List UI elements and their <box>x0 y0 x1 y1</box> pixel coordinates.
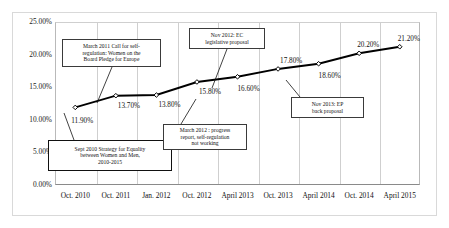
annotation-nov-2012: Nov 2012: EClegislative proposal <box>189 28 265 49</box>
data-point-marker <box>397 44 402 49</box>
annotation-line: Nov 2013: EP <box>312 101 344 108</box>
annotation-nov-2013: Nov 2013: EPback proposal <box>291 97 364 118</box>
annotation-line: regulation: Women on the <box>82 50 140 57</box>
data-point-marker <box>357 51 362 56</box>
data-point-label: 20.20% <box>357 41 379 49</box>
data-point-marker <box>154 93 159 98</box>
annotation-text: Nov 2013: EPback proposal <box>312 101 344 114</box>
annotation-march-2011: March 2011 Call for self-regulation: Wom… <box>62 39 161 67</box>
annotation-line: 2010-2015 <box>75 159 146 166</box>
data-point-marker <box>276 67 281 72</box>
data-point-label: 17.80% <box>280 57 302 65</box>
annotation-march-2012: March 2012 : progressreport, self-regula… <box>163 124 247 150</box>
data-point-label: 13.80% <box>158 101 180 109</box>
data-point-label: 13.70% <box>118 102 140 110</box>
data-point-label: 15.80% <box>199 88 221 96</box>
annotation-leader-line <box>286 80 300 97</box>
data-point-marker <box>114 93 119 98</box>
annotation-leader-line <box>212 49 227 88</box>
data-point-label: 18.60% <box>319 72 341 80</box>
annotation-line: not working <box>180 140 231 147</box>
data-point-marker <box>235 74 240 79</box>
annotation-text: Nov 2012: EClegislative proposal <box>205 32 249 45</box>
annotation-line: between Women and Men, <box>75 152 146 159</box>
annotation-line: Board Pledge for Europe <box>82 56 140 63</box>
data-point-label: 21.20% <box>398 35 420 43</box>
data-point-label: 16.60% <box>238 85 260 93</box>
annotation-sept-2010: Sept 2010 Strategy for Equalitybetween W… <box>48 140 172 171</box>
chart-figure: 25.00%20.00%15.00%10.00%5.00%0.00% Oct. … <box>0 0 449 228</box>
annotation-line: legislative proposal <box>205 39 249 46</box>
annotation-text: Sept 2010 Strategy for Equalitybetween W… <box>75 146 146 166</box>
annotation-line: Sept 2010 Strategy for Equality <box>75 146 146 153</box>
data-point-marker <box>195 80 200 85</box>
data-point-label: 11.90% <box>71 117 93 125</box>
annotation-line: Nov 2012: EC <box>205 32 249 39</box>
annotation-line: March 2011 Call for self- <box>82 43 140 50</box>
annotation-leader-line <box>181 99 196 124</box>
data-point-marker <box>73 105 78 110</box>
annotation-line: March 2012 : progress <box>180 127 231 134</box>
data-point-marker <box>316 61 321 66</box>
annotation-text: March 2011 Call for self-regulation: Wom… <box>82 43 140 63</box>
annotation-line: back proposal <box>312 108 344 115</box>
annotation-text: March 2012 : progressreport, self-regula… <box>180 127 231 147</box>
annotation-line: report, self-regulation <box>180 134 231 141</box>
